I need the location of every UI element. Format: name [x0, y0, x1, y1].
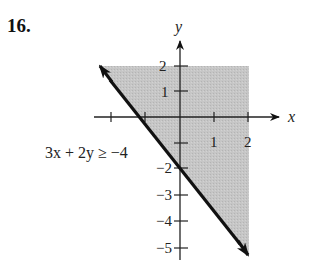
y-axis-label: y [173, 18, 183, 36]
y-tick-label-neg4: −4 [156, 213, 172, 229]
y-tick-label-neg5: −5 [156, 240, 172, 256]
y-tick-label-2: 2 [159, 58, 167, 74]
y-tick-label-1: 1 [161, 84, 169, 100]
x-axis-label: x [287, 108, 295, 125]
x-tick-label-2: 2 [244, 134, 252, 150]
inequality-graph: x y 1 2 2 1 −2 −3 −4 −5 3x + 2y ≥ −4 [0, 0, 311, 271]
y-tick-label-neg3: −3 [156, 187, 172, 203]
y-tick-label-neg2: −2 [156, 160, 172, 176]
inequality-label: 3x + 2y ≥ −4 [45, 144, 128, 162]
x-tick-label-1: 1 [210, 134, 218, 150]
